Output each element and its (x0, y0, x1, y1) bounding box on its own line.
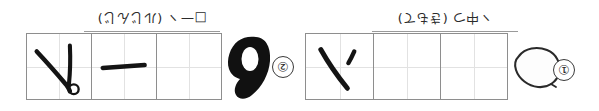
row-1-cell-3[interactable] (157, 34, 221, 99)
row-2-cell-2[interactable] (374, 34, 441, 99)
row-1-header-underline (84, 31, 220, 32)
row-2-cell-1[interactable] (306, 34, 374, 99)
row-1-glyph-2 (92, 34, 155, 99)
row-2-glyph-3 (441, 34, 507, 99)
row-1-glyph-3 (157, 34, 221, 99)
row-2-header-underline (372, 31, 518, 32)
row-2-cell-3[interactable] (441, 34, 507, 99)
row-2-glyph-1 (306, 34, 373, 99)
row-1-glyph-1 (27, 34, 91, 99)
row-1-ink-blob-icon (226, 33, 272, 101)
row-1-practice-grid[interactable] (26, 33, 222, 100)
row-1-cell-1[interactable] (27, 34, 92, 99)
row-1-cell-2[interactable] (92, 34, 156, 99)
row-2-header-label: ヽ中つ (きもて) (372, 12, 518, 25)
row-1-marker-label: ② (277, 60, 289, 75)
worksheet-scan: □一ヽ (ルじんじ) (0, 0, 599, 111)
row-1-header-label: □一ヽ (ルじんじ) (84, 12, 220, 25)
row-2-marker-label: ① (558, 63, 570, 78)
row-1-header-text: □一ヽ (ルじんじ) (97, 11, 207, 26)
row-2-glyph-2 (374, 34, 440, 99)
row-2-marker-circled-number: ① (553, 59, 575, 81)
row-1-marker-circled-number: ② (272, 56, 294, 78)
row-2-practice-grid[interactable] (305, 33, 508, 100)
row-2-header-text: ヽ中つ (きもて) (397, 11, 493, 26)
